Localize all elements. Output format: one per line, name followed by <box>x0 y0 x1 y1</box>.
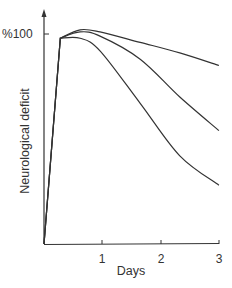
x-tick-label-2: 2 <box>158 252 165 266</box>
y-tick-label-100: %100 <box>2 27 33 41</box>
curve-bottom <box>44 37 219 244</box>
line-chart <box>0 0 232 288</box>
x-axis <box>44 244 219 245</box>
y-axis-arrow-icon <box>42 9 47 17</box>
y-axis-label: Neurological deficit <box>18 88 32 194</box>
x-axis-label: Days <box>117 264 145 278</box>
curve-top <box>44 29 219 244</box>
x-tick-label-1: 1 <box>99 252 106 266</box>
series-layer <box>44 29 219 244</box>
curve-middle <box>44 32 219 244</box>
x-tick-label-3: 3 <box>216 252 223 266</box>
